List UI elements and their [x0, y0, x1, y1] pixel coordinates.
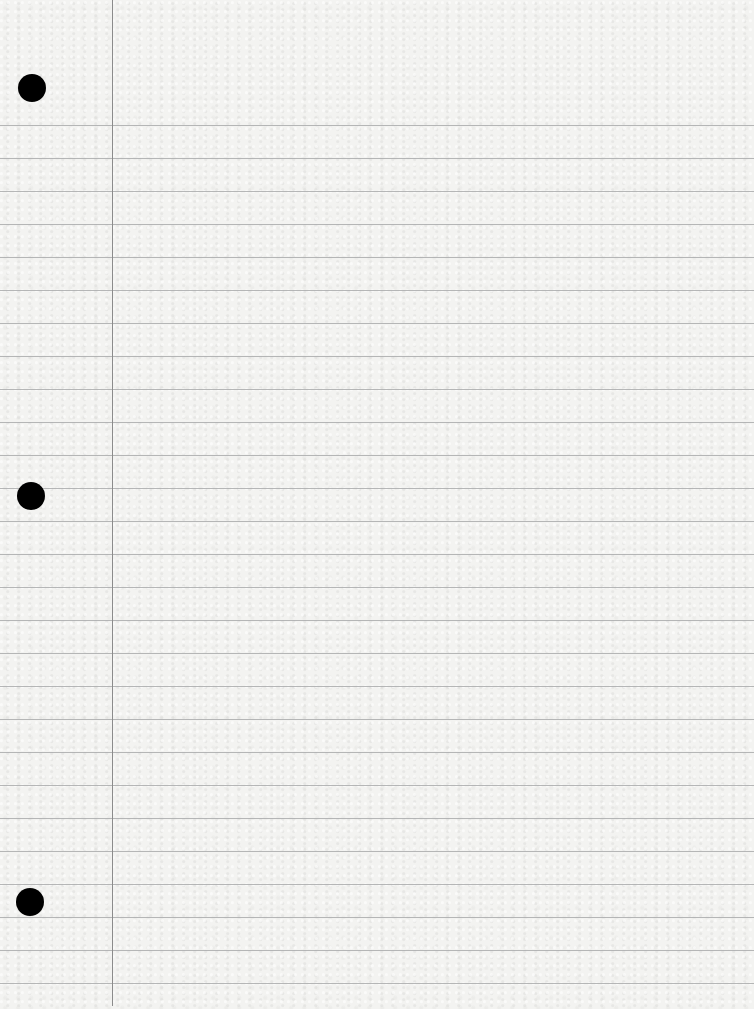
- ruled-line: [0, 290, 754, 291]
- ruled-line: [0, 818, 754, 819]
- ruled-line: [0, 125, 754, 126]
- ruled-line: [0, 224, 754, 225]
- ruled-line: [0, 917, 754, 918]
- notebook-paper: [0, 0, 754, 1009]
- punch-hole-icon: [18, 74, 46, 102]
- ruled-line: [0, 653, 754, 654]
- ruled-line: [0, 488, 754, 489]
- ruled-line: [0, 587, 754, 588]
- ruled-line: [0, 356, 754, 357]
- ruled-line: [0, 521, 754, 522]
- ruled-line: [0, 686, 754, 687]
- ruled-line: [0, 191, 754, 192]
- punch-hole-icon: [16, 888, 44, 916]
- ruled-line: [0, 983, 754, 984]
- punch-hole-icon: [17, 482, 45, 510]
- ruled-line: [0, 950, 754, 951]
- ruled-line: [0, 323, 754, 324]
- ruled-line: [0, 389, 754, 390]
- ruled-line: [0, 884, 754, 885]
- ruled-line: [0, 257, 754, 258]
- ruled-line: [0, 752, 754, 753]
- ruled-line: [0, 851, 754, 852]
- ruled-line: [0, 422, 754, 423]
- ruled-line: [0, 455, 754, 456]
- ruled-line: [0, 719, 754, 720]
- ruled-line: [0, 158, 754, 159]
- ruled-line: [0, 554, 754, 555]
- ruled-line: [0, 620, 754, 621]
- margin-line: [112, 0, 113, 1006]
- ruled-line: [0, 785, 754, 786]
